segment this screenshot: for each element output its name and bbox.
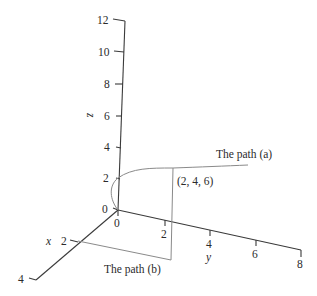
z-tick-2: 2 — [103, 172, 109, 184]
z-tick-8: 8 — [104, 78, 110, 90]
y-axis-label: y — [205, 251, 212, 264]
y-tick-2: 2 — [161, 228, 167, 240]
z-tick-4: 4 — [104, 141, 110, 153]
path-a-curve — [111, 165, 248, 210]
y-tick-4: 4 — [206, 238, 212, 250]
y-tick-0: 0 — [114, 217, 120, 229]
z-tick-12: 12 — [97, 14, 109, 26]
z-tick-6: 6 — [104, 110, 110, 122]
z-tick-10: 10 — [98, 46, 110, 58]
z-axis-label: z — [85, 112, 97, 118]
z-tick-0: 0 — [102, 203, 108, 215]
path-a-label: The path (a) — [216, 148, 272, 161]
diagram-canvas: 12 10 8 6 4 2 0 z x 2 4 0 2 4 y 6 8 — [0, 0, 317, 296]
path-b-polyline — [78, 168, 173, 260]
path-b-label: The path (b) — [104, 263, 161, 276]
point-label: (2, 4, 6) — [177, 175, 214, 188]
x-tick-4: 4 — [18, 273, 24, 285]
y-tick-8: 8 — [297, 258, 303, 270]
y-tick-6: 6 — [252, 248, 258, 260]
z-tick-labels: 12 10 8 6 4 2 0 z — [85, 14, 110, 215]
x-tick-2: 2 — [61, 235, 67, 247]
x-axis-label: x — [45, 235, 52, 247]
